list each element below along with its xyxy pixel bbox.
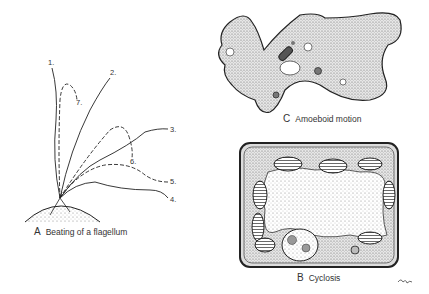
position-label-1: 1. [48, 58, 54, 67]
signature-mark [398, 280, 412, 283]
plant-cell-diagram [240, 143, 398, 267]
caption-c-text: Amoeboid motion [295, 114, 361, 124]
position-label-4: 4. [170, 195, 176, 204]
position-label-2: 2. [110, 68, 116, 77]
caption-b-text: Cyclosis [309, 273, 341, 283]
panel-letter-c: C [283, 113, 290, 124]
flagellum-diagram [25, 68, 168, 222]
caption-c: CAmoeboid motion [283, 113, 361, 124]
amoeba-diagram [219, 13, 402, 113]
panel-letter-b: B [297, 272, 304, 283]
position-label-3: 3. [170, 125, 176, 134]
caption-a: ABeating of a flagellum [34, 226, 127, 237]
position-label-6: 6. [130, 157, 136, 166]
caption-a-text: Beating of a flagellum [46, 227, 128, 237]
position-label-5: 5. [170, 177, 176, 186]
position-label-7: 7. [76, 98, 82, 107]
panel-letter-a: A [34, 226, 41, 237]
illustration-canvas [0, 0, 429, 294]
caption-b: BCyclosis [297, 272, 340, 283]
